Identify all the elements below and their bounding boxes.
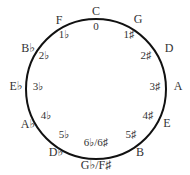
signature-label: 5♭ [59, 129, 70, 140]
key-label: B [136, 146, 144, 158]
signature-label: 1♯ [124, 29, 135, 40]
key-label: D [165, 42, 174, 54]
signature-label: 1♭ [59, 29, 70, 40]
signature-label: 4♭ [41, 110, 52, 121]
signature-label: 3♭ [33, 81, 44, 92]
signature-label: 6♭/6♯ [84, 137, 109, 148]
signature-label: 2♯ [141, 50, 152, 61]
signature-label: 3♯ [150, 81, 161, 92]
signature-label: 0 [93, 21, 99, 32]
key-label: B♭ [21, 42, 35, 54]
key-label: F [56, 14, 63, 26]
key-label: G♭/F♯ [81, 159, 111, 171]
signature-label: 4♯ [143, 110, 154, 121]
key-label: G [134, 13, 143, 25]
signature-label: 5♯ [126, 129, 137, 140]
key-label: E [163, 117, 170, 129]
key-label: A♭ [21, 118, 35, 130]
key-label: C [92, 5, 100, 17]
circle-of-fifths-diagram: CGDAEBG♭/F♯D♭A♭E♭B♭F01♯2♯3♯4♯5♯6♭/6♯5♭4♭… [0, 0, 190, 175]
key-label: A [174, 80, 183, 92]
key-label: E♭ [10, 80, 23, 92]
key-label: D♭ [49, 146, 63, 158]
signature-label: 2♭ [39, 50, 50, 61]
